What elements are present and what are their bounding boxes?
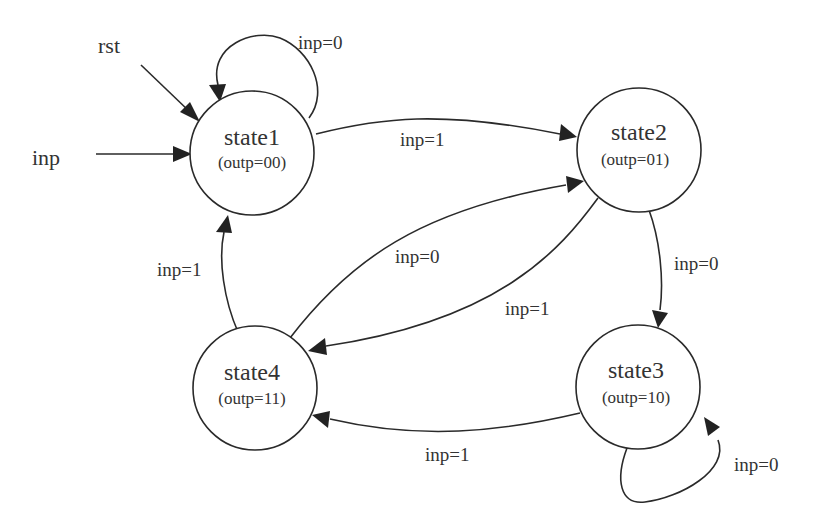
- state-node-state4: state4 (outp=11): [193, 326, 317, 450]
- state-name: state3: [608, 357, 664, 383]
- state-output: (outp=10): [602, 388, 670, 407]
- inp-input-arrow: [96, 146, 192, 162]
- rst-label: rst: [98, 33, 120, 58]
- state-name: state4: [224, 359, 280, 385]
- edge-label-state3-state4: inp=1: [425, 444, 470, 465]
- edge-state1-state2: [316, 119, 577, 141]
- state-diagram: rst inp inp=0 inp=1 inp=0 inp=1 inp=0 in…: [0, 0, 822, 524]
- edge-state2-state3: [649, 210, 668, 328]
- rst-input-arrow: [141, 65, 200, 122]
- edge-label-state2-state4: inp=1: [505, 298, 550, 319]
- state-name: state2: [611, 119, 667, 145]
- edge-label-state1-state1: inp=0: [298, 32, 343, 53]
- edge-label-state1-state2: inp=1: [400, 129, 445, 150]
- edge-state3-state4: [312, 411, 580, 431]
- edge-label-state2-state3: inp=0: [674, 253, 719, 274]
- state-output: (outp=00): [218, 153, 286, 172]
- edge-label-state4-state1: inp=1: [157, 259, 202, 280]
- state-name: state1: [224, 124, 280, 150]
- state-node-state3: state3 (outp=10): [576, 325, 700, 449]
- state-node-state1: state1 (outp=00): [190, 91, 314, 215]
- edge-label-state4-state2: inp=0: [395, 246, 440, 267]
- state-output: (outp=01): [601, 150, 669, 169]
- edge-label-state3-state3: inp=0: [734, 454, 779, 475]
- state-node-state2: state2 (outp=01): [577, 88, 701, 212]
- edge-state4-state1: [216, 215, 238, 332]
- edge-state2-state4: [308, 198, 598, 355]
- state-output: (outp=11): [218, 389, 286, 408]
- inp-label: inp: [32, 145, 60, 170]
